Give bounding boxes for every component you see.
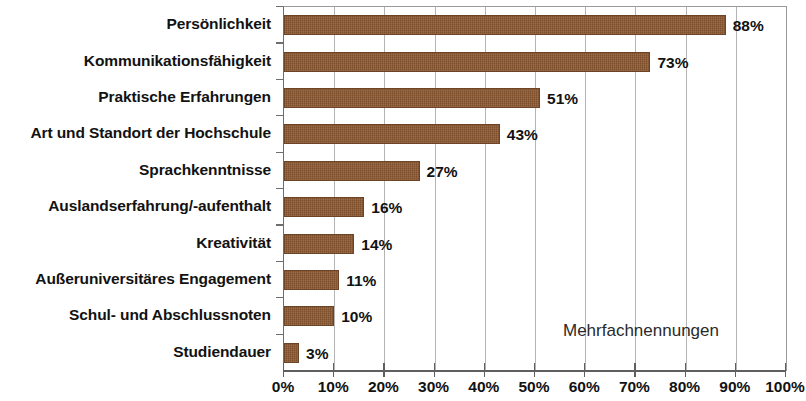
x-axis-tick-label: 10% (318, 379, 349, 395)
x-axis-tick-inner (735, 363, 736, 370)
y-axis-tick (276, 224, 283, 225)
x-axis-tick (785, 370, 786, 377)
category-label: Praktische Erfahrungen (0, 89, 271, 105)
x-axis-tick (584, 370, 585, 377)
bar-value-label: 73% (657, 53, 688, 72)
bar-value-label: 51% (547, 89, 578, 108)
x-axis-tick (634, 370, 635, 377)
bar-row: 43% (284, 124, 786, 144)
x-axis-tick-label: 70% (619, 379, 650, 395)
x-axis-tick-inner (333, 363, 334, 370)
category-axis-labels: PersönlichkeitKommunikationsfähigkeitPra… (0, 6, 277, 370)
category-label: Schul- und Abschlussnoten (0, 307, 271, 323)
x-axis-tick (685, 370, 686, 377)
x-axis-tick (383, 370, 384, 377)
category-label: Kreativität (0, 235, 271, 251)
bar (284, 15, 726, 35)
x-axis-tick-label: 90% (719, 379, 750, 395)
y-axis-tick (276, 261, 283, 262)
bar-value-label: 16% (371, 198, 402, 217)
bar-row: 16% (284, 197, 786, 217)
bar (284, 306, 334, 326)
y-axis-tick (276, 79, 283, 80)
x-axis-tick (283, 370, 284, 377)
x-axis-tick-inner (534, 363, 535, 370)
x-axis-tick-label: 60% (569, 379, 600, 395)
chart-annotation: Mehrfachnennungen (563, 322, 719, 339)
bar-value-label: 10% (341, 307, 372, 326)
category-label: Studiendauer (0, 344, 271, 360)
bar (284, 270, 339, 290)
x-axis-tick-inner (785, 363, 786, 370)
bar (284, 124, 500, 144)
bar (284, 234, 354, 254)
x-axis-tick-label: 0% (272, 379, 294, 395)
x-axis-tick (484, 370, 485, 377)
bar-value-label: 11% (346, 271, 376, 290)
x-axis-tick-inner (484, 363, 485, 370)
x-axis-tick-inner (383, 363, 384, 370)
x-axis-tick-inner (584, 363, 585, 370)
x-axis-tick (434, 370, 435, 377)
bar-value-label: 14% (361, 235, 392, 254)
y-axis-tick (276, 6, 283, 7)
bar-value-label: 3% (306, 344, 328, 363)
bar (284, 88, 540, 108)
bar (284, 343, 299, 363)
x-axis-tick-inner (685, 363, 686, 370)
y-axis-tick (276, 188, 283, 189)
category-label: Kommunikationsfähigkeit (0, 53, 271, 69)
x-axis-tick-label: 20% (368, 379, 399, 395)
x-axis-tick-inner (634, 363, 635, 370)
bar-row: 11% (284, 270, 786, 290)
category-label: Außeruniversitäres Engagement (0, 271, 271, 287)
x-axis-tick (333, 370, 334, 377)
bar-row: 88% (284, 15, 786, 35)
bar (284, 161, 420, 181)
x-axis-tick-label: 100% (765, 379, 805, 395)
y-axis-tick (276, 115, 283, 116)
x-axis-tick-label: 30% (418, 379, 449, 395)
bar-row: 51% (284, 88, 786, 108)
plot-area: 88%73%51%43%27%16%14%11%10%3% (283, 6, 787, 371)
x-axis-tick (534, 370, 535, 377)
bar-chart: PersönlichkeitKommunikationsfähigkeitPra… (0, 0, 806, 401)
category-label: Art und Standort der Hochschule (0, 125, 271, 141)
bar-value-label: 27% (427, 162, 458, 181)
category-label: Persönlichkeit (0, 16, 271, 32)
bar-value-label: 88% (733, 16, 764, 35)
x-axis-tick (735, 370, 736, 377)
y-axis-tick (276, 42, 283, 43)
bar (284, 197, 364, 217)
category-label: Auslandserfahrung/-aufenthalt (0, 198, 271, 214)
bar-row: 14% (284, 234, 786, 254)
bar-row: 3% (284, 343, 786, 363)
gridline-100 (786, 7, 787, 371)
bar-row: 73% (284, 52, 786, 72)
bar-row: 27% (284, 161, 786, 181)
y-axis-tick (276, 297, 283, 298)
y-axis-tick (276, 152, 283, 153)
bar-value-label: 43% (507, 125, 538, 144)
x-axis-tick-label: 40% (468, 379, 499, 395)
x-axis-tick-label: 50% (518, 379, 549, 395)
x-axis-tick-inner (283, 363, 284, 370)
bar (284, 52, 650, 72)
y-axis-tick (276, 334, 283, 335)
x-axis-tick-label: 80% (669, 379, 700, 395)
x-axis-tick-inner (434, 363, 435, 370)
category-label: Sprachkenntnisse (0, 162, 271, 178)
